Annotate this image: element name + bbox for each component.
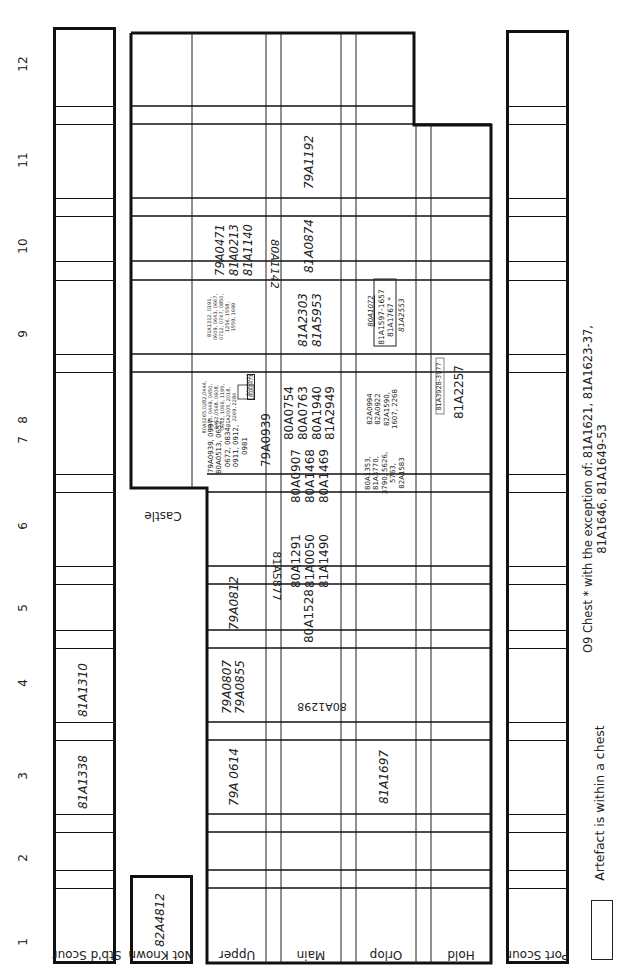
cell-upper-7-chest-b: 80A0473: [247, 374, 255, 400]
cell-upper-9: 81A1312, 0191, 0609, 0643, 0667, 0712, 0…: [206, 280, 266, 354]
cell-orlop-9b: 81A2553: [397, 285, 407, 345]
deck-label-orlop: Orlop: [361, 948, 411, 962]
cell-upper-3: 79A 0614: [228, 747, 244, 807]
cell-upper-7b: 79A0939: [260, 410, 276, 470]
cell-upper-10: 79A0471 81A0213 81A1140: [214, 210, 258, 290]
deck-label-hold: Hold: [436, 948, 486, 962]
cell-main-9: 81A2303 81A5953: [296, 290, 326, 350]
deck-label-upper: Upper: [212, 948, 262, 962]
cell-upper-5: 79A0812: [228, 573, 244, 633]
cell-orlop-3: 81A1697: [378, 747, 394, 807]
cell-upper-7a: 79A0939, 0997 80A0513, 0652, 0672, 0834,…: [207, 411, 259, 481]
legend-chest-label: Artefact is within a chest: [593, 708, 609, 898]
castle-label: Castle: [138, 506, 188, 522]
cell-upper-main-3-4: 80A1298: [292, 698, 352, 712]
cell-main-10: 81A0874: [303, 216, 319, 276]
cell-hold-8: 81A2257: [453, 362, 469, 422]
legend-chest-swatch: [591, 900, 613, 960]
cell-upper-main-8-9: 80A1142: [266, 234, 280, 294]
cell-main-5: 80A1528: [303, 586, 319, 646]
cell-upper-4: 79A0807 79A0855: [221, 657, 251, 717]
deck-label-port-scour: Port Scour: [502, 948, 574, 962]
cell-main-7: 80A0907 80A1468 80A1469: [290, 440, 332, 512]
cell-orlop-9-chest: 81A1597-1657 81A1767 *: [377, 284, 395, 350]
cell-orlop-8: 82A0994 82A0922 82A1590, 1607, 2268: [366, 377, 410, 441]
cell-orlop-8-chest: 81A3928-3977: [436, 357, 445, 417]
legend-note: O9 Chest * with the exception of: 81A162…: [582, 324, 612, 654]
cell-main-11: 79A1192: [303, 132, 319, 192]
deck-label-main: Main: [286, 948, 336, 962]
deck-label-stbd-scour: Stb'd Scour: [52, 948, 122, 962]
port-scour-box: [506, 30, 569, 964]
cell-orlop-7: 80A1353, 81A3770, 3790, 5626, 5763, 82A1…: [364, 441, 414, 505]
deck-label-not-known: Not Known: [124, 948, 198, 962]
cell-orlop-9a: 80A1072: [367, 281, 377, 341]
cell-upper-main-5-6: 81A5877: [268, 546, 282, 606]
